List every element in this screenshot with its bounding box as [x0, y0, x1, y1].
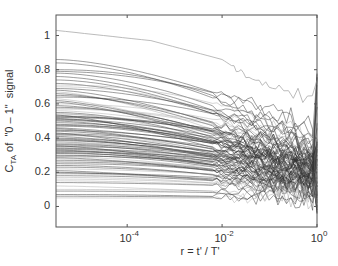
x-tick-label: 10-4: [109, 230, 149, 244]
y-tick-label: 0.2: [20, 165, 50, 177]
y-tick-label: 1: [20, 29, 50, 41]
series-line: [56, 89, 317, 139]
y-tick-label: 0.6: [20, 97, 50, 109]
x-axis-label: r = t' / T': [140, 245, 260, 257]
y-tick-label: 0: [20, 199, 50, 211]
series-lines: [56, 30, 317, 213]
y-tick-label: 0.8: [20, 63, 50, 75]
chart-canvas: [0, 0, 338, 266]
y-axis-label: CTA of "0 – 1" signal: [3, 21, 19, 221]
y-tick-label: 0.4: [20, 131, 50, 143]
series-line: [56, 63, 317, 156]
x-tick-label: 10-2: [204, 230, 244, 244]
x-tick-label: 100: [299, 230, 338, 244]
